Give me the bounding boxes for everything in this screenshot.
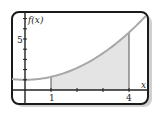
x-tick-label-4: 4 bbox=[126, 93, 132, 103]
x-axis-label: x bbox=[141, 80, 146, 90]
y-tick-label-5: 5 bbox=[17, 35, 23, 45]
y-axis-label: f(x) bbox=[27, 15, 44, 25]
function-area-chart: f(x) x 1 4 5 bbox=[0, 0, 165, 116]
x-tick-label-1: 1 bbox=[49, 93, 55, 103]
